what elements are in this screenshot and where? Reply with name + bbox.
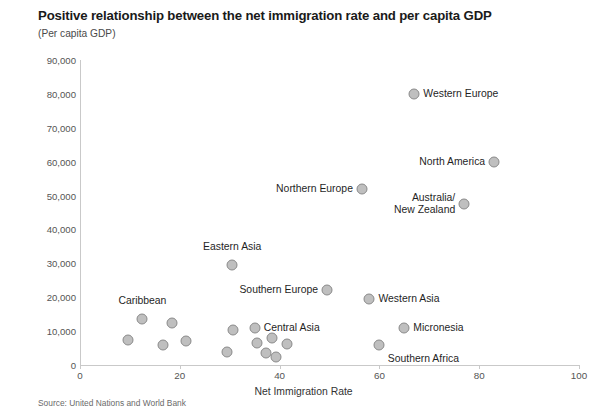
data-point[interactable] (252, 338, 263, 349)
data-point-western-europe[interactable] (409, 88, 420, 99)
data-point-southern-europe[interactable] (322, 285, 333, 296)
data-point-label: Southern Europe (239, 284, 318, 296)
data-point-label: Micronesia (413, 322, 463, 334)
data-point-eastern-asia[interactable] (227, 260, 238, 271)
data-point-label: Australia/ New Zealand (394, 192, 455, 217)
x-axis-tick-label: 0 (77, 370, 82, 381)
y-axis-tick-label: 0 (24, 360, 76, 371)
data-point-western-asia[interactable] (364, 293, 375, 304)
data-point[interactable] (123, 335, 134, 346)
x-axis-tick-mark (280, 365, 281, 369)
chart-source: Source: United Nations and World Bank (38, 398, 186, 408)
data-point-southern-africa[interactable] (374, 339, 385, 350)
x-axis-tick-label: 60 (374, 370, 385, 381)
data-point-label: Eastern Asia (203, 241, 261, 253)
data-point[interactable] (158, 340, 169, 351)
data-point-north-america[interactable] (489, 156, 500, 167)
data-point[interactable] (228, 325, 239, 336)
data-point-micronesia[interactable] (399, 322, 410, 333)
y-axis-tick-label: 70,000 (24, 122, 76, 133)
chart-subtitle: (Per capita GDP) (38, 28, 116, 39)
y-axis-tick-label: 80,000 (24, 88, 76, 99)
data-point-label: Caribbean (118, 295, 166, 307)
page-title: Positive relationship between the net im… (38, 8, 492, 23)
data-point[interactable] (271, 352, 282, 363)
data-point[interactable] (181, 336, 192, 347)
y-axis-tick-label: 40,000 (24, 224, 76, 235)
x-axis-tick-mark (579, 365, 580, 369)
data-point-label: Southern Africa (388, 353, 459, 365)
x-axis-tick-mark (180, 365, 181, 369)
data-point-australia-new-zealand[interactable] (459, 199, 470, 210)
y-axis-tick-label: 20,000 (24, 292, 76, 303)
y-axis-tick-label: 30,000 (24, 258, 76, 269)
x-axis-tick-label: 40 (274, 370, 285, 381)
data-point-caribbean[interactable] (137, 314, 148, 325)
x-axis-tick-mark (379, 365, 380, 369)
x-axis-tick-label: 80 (474, 370, 485, 381)
data-point[interactable] (222, 347, 233, 358)
data-point-label: Western Europe (423, 88, 498, 100)
y-axis-ticks: 010,00020,00030,00040,00050,00060,00070,… (20, 60, 76, 365)
x-axis-tick-mark (80, 365, 81, 369)
x-axis-tick-label: 100 (571, 370, 587, 381)
data-point-central-asia[interactable] (249, 322, 260, 333)
y-axis-tick-label: 90,000 (24, 55, 76, 66)
y-axis-tick-label: 60,000 (24, 156, 76, 167)
x-axis-tick-mark (479, 365, 480, 369)
y-axis-tick-label: 50,000 (24, 190, 76, 201)
x-axis-title: Net Immigration Rate (0, 386, 607, 397)
data-point[interactable] (267, 333, 278, 344)
scatter-chart: Positive relationship between the net im… (0, 0, 607, 420)
x-axis-tick-label: 20 (174, 370, 185, 381)
x-axis-line (80, 365, 579, 366)
data-point-label: Western Asia (378, 293, 439, 305)
y-axis-tick-label: 10,000 (24, 326, 76, 337)
plot-area (80, 60, 579, 365)
data-point[interactable] (167, 318, 178, 329)
data-point-label: North America (419, 155, 485, 167)
data-point-northern-europe[interactable] (356, 183, 367, 194)
data-point[interactable] (282, 339, 293, 350)
data-point-label: Northern Europe (276, 183, 353, 195)
